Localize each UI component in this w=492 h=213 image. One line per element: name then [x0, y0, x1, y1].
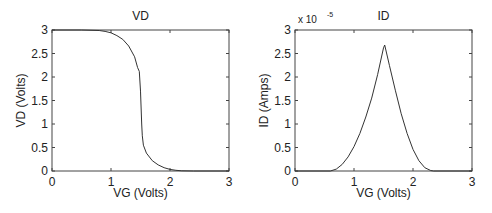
y-axis-label: ID (Amps) [257, 73, 271, 127]
x-axis-label: VG (Volts) [113, 186, 168, 200]
y-multiplier: x 10 [298, 14, 317, 25]
chart-id: 012300.511.522.53IDVG (Volts)ID (Amps)x … [257, 9, 476, 200]
x-tick-label: 3 [226, 175, 233, 189]
y-tick-label: 2.5 [31, 47, 48, 61]
y-axis-label: VD (Volts) [14, 73, 28, 127]
y-tick-label: 3 [284, 23, 291, 37]
x-tick-label: 3 [469, 175, 476, 189]
axes-box [295, 30, 472, 171]
x-tick-label: 0 [49, 175, 56, 189]
x-axis-label: VG (Volts) [356, 186, 411, 200]
chart-vd: 012300.511.522.53VDVG (Volts)VD (Volts) [14, 9, 233, 200]
y-tick-label: 2.5 [274, 47, 291, 61]
y-tick-label: 1 [284, 117, 291, 131]
y-tick-label: 0 [284, 164, 291, 178]
series-line [52, 30, 229, 171]
chart-title: VD [132, 9, 149, 23]
y-tick-label: 0 [41, 164, 48, 178]
y-tick-label: 2 [284, 70, 291, 84]
series-line [295, 45, 472, 171]
figure: 012300.511.522.53VDVG (Volts)VD (Volts)0… [0, 0, 492, 213]
y-tick-label: 3 [41, 23, 48, 37]
y-tick-label: 1 [41, 117, 48, 131]
y-tick-label: 2 [41, 70, 48, 84]
x-tick-label: 0 [292, 175, 299, 189]
y-tick-label: 1.5 [274, 94, 291, 108]
y-exponent: -5 [327, 11, 333, 18]
y-tick-label: 1.5 [31, 94, 48, 108]
y-tick-label: 0.5 [31, 141, 48, 155]
chart-title: ID [378, 9, 390, 23]
y-tick-label: 0.5 [274, 141, 291, 155]
